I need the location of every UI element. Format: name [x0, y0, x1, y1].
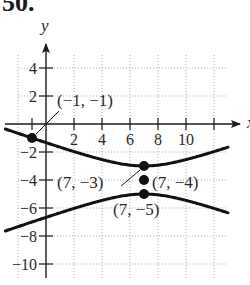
point-marker [139, 175, 149, 185]
x-tick-label: 6 [126, 131, 134, 148]
y-tick-label: −6 [20, 200, 37, 217]
labeled-points: (−1, −1)(7, −3)(7, −4)(7, −5) [27, 91, 198, 219]
y-tick-label: 4 [29, 60, 37, 77]
upper-branch-curve [5, 129, 228, 166]
point-marker [27, 133, 37, 143]
leader-line [36, 111, 59, 134]
x-axis-label: x [246, 113, 250, 132]
point-label: (−1, −1) [57, 91, 113, 110]
x-tick-label: 2 [70, 131, 78, 148]
y-tick-label: −2 [20, 144, 37, 161]
x-tick-label: 8 [154, 131, 162, 148]
point-marker [139, 189, 149, 199]
x-tick-label: 4 [98, 131, 106, 148]
y-tick-label: −8 [20, 228, 37, 245]
y-axis-label: y [39, 16, 49, 35]
point-marker [139, 161, 149, 171]
leader-line [121, 170, 140, 186]
point-label: (7, −4) [152, 173, 198, 192]
x-tick-label: 10 [178, 131, 194, 148]
point-label: (7, −3) [57, 173, 103, 192]
y-tick-label: −4 [20, 172, 37, 189]
y-tick-label: 2 [29, 88, 37, 105]
y-tick-label: −10 [12, 256, 37, 273]
point-label: (7, −5) [113, 200, 159, 219]
hyperbola-chart: yx 24681042−2−4−6−8−10 (−1, −1)(7, −3)(7… [0, 0, 250, 285]
grid-lines [18, 55, 228, 278]
